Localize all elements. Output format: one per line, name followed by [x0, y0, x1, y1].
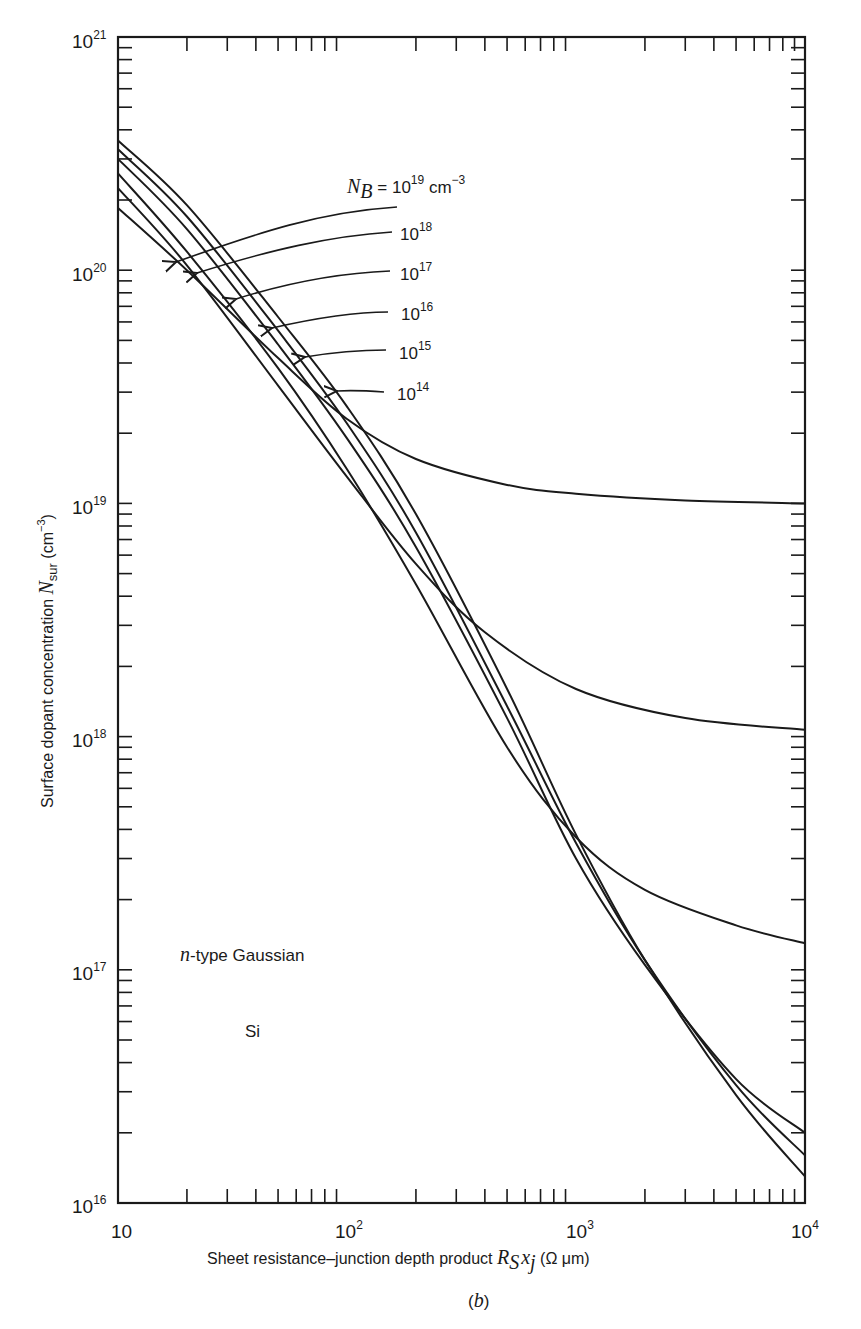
- label-nb19: NB = 1019 cm−3: [346, 173, 466, 202]
- x-tick-label-1e3: 103: [566, 1218, 594, 1242]
- y-tick-label-1e16: 1016: [72, 1193, 107, 1217]
- leader-nb17: [236, 271, 390, 299]
- x-tick-label-1e2: 102: [335, 1218, 363, 1242]
- annotation-profile-type: n-type Gaussian: [180, 943, 304, 965]
- label-nb14: 1014: [397, 380, 430, 404]
- curve-nb-1e18: [118, 188, 805, 730]
- label-nb17: 1017: [400, 260, 433, 284]
- y-tick-label-1e19: 1019: [72, 494, 107, 518]
- label-nb18: 1018: [400, 220, 433, 244]
- label-nb15: 1015: [399, 339, 432, 363]
- x-tick-labels: 10 102 103 104: [111, 1218, 819, 1242]
- leader-nb15: [305, 350, 386, 357]
- y-tick-label-1e18: 1018: [72, 727, 107, 751]
- x-tick-label-10: 10: [111, 1221, 132, 1242]
- label-nb16: 1016: [401, 300, 434, 324]
- curve-nb-1e14: [118, 141, 805, 1177]
- x-axis-title: Sheet resistance–junction depth product …: [207, 1246, 590, 1274]
- curves-group: [118, 141, 805, 1177]
- curve-nb-1e19: [118, 208, 805, 504]
- chart-canvas: 1021 1020 1019 1018 1017 1016 10 102 103…: [0, 0, 861, 1329]
- annotation-material: Si: [245, 1022, 260, 1041]
- x-axis-ticks: [187, 37, 795, 1203]
- curve-nb-1e15: [118, 149, 805, 1155]
- y-tick-label-1e17: 1017: [72, 960, 107, 984]
- plot-frame: [118, 37, 805, 1203]
- y-axis-title: Surface dopant concentration Nsur (cm−3): [35, 514, 60, 808]
- y-tick-label-1e21: 1021: [72, 28, 107, 52]
- x-tick-label-1e4: 104: [791, 1218, 819, 1242]
- y-tick-labels: 1021 1020 1019 1018 1017 1016: [72, 28, 107, 1217]
- y-tick-label-1e20: 1020: [72, 261, 107, 285]
- panel-label: (b): [468, 1289, 489, 1311]
- y-axis-ticks: [118, 37, 805, 1203]
- leader-lines: [176, 207, 397, 392]
- leader-nb16: [272, 312, 388, 328]
- curve-nb-1e16: [118, 159, 805, 1133]
- leader-nb14: [337, 391, 384, 392]
- curve-labels: NB = 1019 cm−3 1018 1017 1016 1015 1014: [346, 173, 466, 404]
- curve-nb-1e17: [118, 173, 805, 943]
